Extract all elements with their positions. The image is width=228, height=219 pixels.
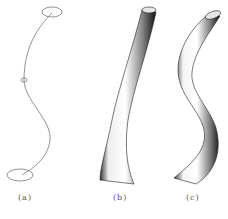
panel-label-a: (a) [18, 193, 32, 202]
tube-body-c [174, 16, 220, 184]
tube-body-b [100, 10, 156, 184]
panel-a-skeleton [7, 7, 62, 181]
top-ellipse [42, 7, 62, 17]
panel-b-tube [100, 7, 156, 184]
tube-top-cap-b [142, 7, 156, 13]
panel-label-b: (b) [113, 193, 127, 202]
panel-c-tube [174, 9, 222, 184]
figure-canvas [0, 0, 228, 219]
bottom-ellipse [7, 169, 33, 181]
panel-label-c: (c) [186, 193, 200, 202]
skeleton-curve [22, 13, 52, 175]
